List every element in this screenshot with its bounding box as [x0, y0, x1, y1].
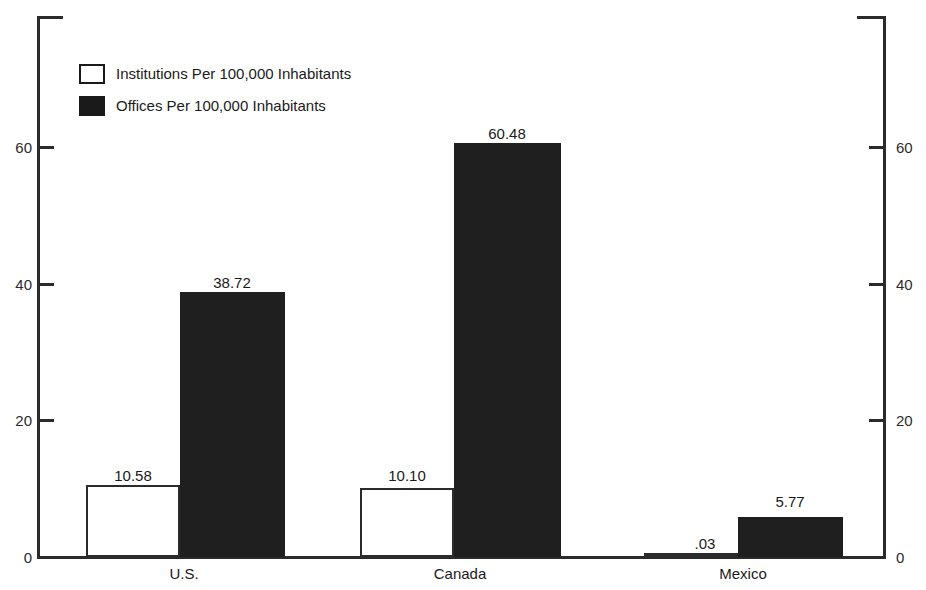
bar-us-offices — [180, 292, 285, 557]
bar-canada-institutions — [360, 488, 454, 557]
y-label-left-0: 0 — [24, 550, 32, 565]
plot-area — [40, 16, 883, 557]
y-label-left-40: 40 — [15, 277, 32, 292]
category-label-mexico: Mexico — [719, 566, 767, 581]
value-label-canada-offices: 60.48 — [488, 126, 526, 141]
bar-canada-offices — [454, 143, 561, 557]
y-label-right-60: 60 — [896, 140, 913, 155]
category-label-us: U.S. — [169, 566, 198, 581]
bar-mexico-offices — [738, 517, 843, 557]
y-label-left-20: 20 — [15, 413, 32, 428]
value-label-mexico-offices: 5.77 — [775, 494, 804, 509]
bar-chart: 60 40 20 0 60 40 20 0 Institutions Per 1… — [0, 0, 926, 590]
y-label-right-20: 20 — [896, 413, 913, 428]
y-label-left-60: 60 — [15, 140, 32, 155]
bar-us-institutions — [86, 485, 180, 557]
bar-mexico-institutions — [644, 553, 738, 557]
value-label-us-offices: 38.72 — [213, 275, 251, 290]
y-label-right-40: 40 — [896, 277, 913, 292]
y-label-right-0: 0 — [896, 550, 904, 565]
category-label-canada: Canada — [434, 566, 487, 581]
value-label-mexico-institutions: .03 — [695, 536, 716, 551]
value-label-canada-institutions: 10.10 — [388, 468, 426, 483]
y-axis-right-line — [883, 16, 886, 559]
value-label-us-institutions: 10.58 — [114, 468, 152, 483]
